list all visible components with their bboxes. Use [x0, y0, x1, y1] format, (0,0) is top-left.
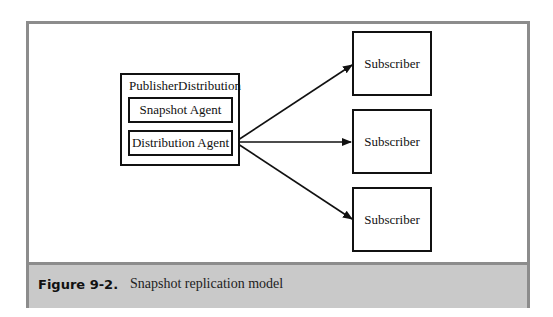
subscriber-label: Subscriber: [364, 212, 420, 228]
subscriber-label: Subscriber: [364, 134, 420, 150]
subscriber-box-2: Subscriber: [352, 109, 432, 174]
arrow-to-subscriber-1: [235, 65, 352, 142]
distribution-agent-box: Distribution Agent: [128, 130, 233, 156]
subscriber-label: Subscriber: [364, 56, 420, 72]
subscriber-box-1: Subscriber: [352, 31, 432, 96]
distribution-arrows: [0, 0, 553, 317]
snapshot-agent-box: Snapshot Agent: [128, 97, 233, 123]
publisher-title: PublisherDistribution: [129, 78, 241, 94]
arrow-to-subscriber-3: [235, 142, 352, 219]
publisher-distribution-box: PublisherDistribution Snapshot Agent Dis…: [120, 73, 240, 166]
subscriber-box-3: Subscriber: [352, 187, 432, 252]
